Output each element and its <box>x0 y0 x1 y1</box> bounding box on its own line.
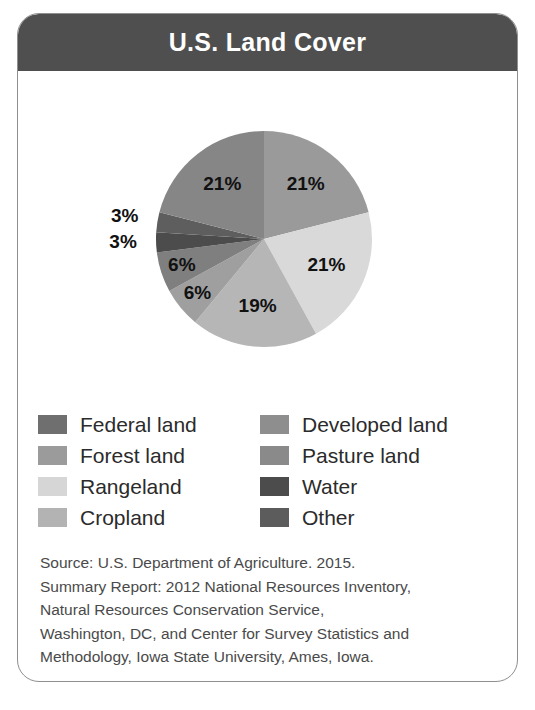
pie-slice-label: 19% <box>239 295 277 316</box>
legend-swatch-icon <box>260 508 289 527</box>
legend-swatch-icon <box>260 415 289 434</box>
legend-item-label: Rangeland <box>80 475 182 499</box>
source-line: Summary Report: 2012 National Resources … <box>40 575 500 599</box>
legend-item[interactable]: Cropland <box>38 502 256 533</box>
legend-item-label: Water <box>302 475 357 499</box>
legend-item-label: Cropland <box>80 506 165 530</box>
legend-swatch-icon <box>260 446 289 465</box>
pie-slice-label: 6% <box>184 282 212 303</box>
legend-item-label: Developed land <box>302 413 448 437</box>
source-line: Washington, DC, and Center for Survey St… <box>40 622 500 646</box>
legend-item[interactable]: Developed land <box>260 409 478 440</box>
legend-swatch-icon <box>38 508 67 527</box>
legend-item-label: Forest land <box>80 444 185 468</box>
legend-item[interactable]: Federal land <box>38 409 256 440</box>
pie-slice-label: 3% <box>109 231 137 252</box>
legend-item[interactable]: Forest land <box>38 440 256 471</box>
pie-chart-svg: 21%21%19%6%6%3%3%21% <box>18 71 518 411</box>
legend-item-label: Pasture land <box>302 444 420 468</box>
pie-chart: 21%21%19%6%6%3%3%21% <box>18 71 517 411</box>
legend-item[interactable]: Pasture land <box>260 440 478 471</box>
pie-slice-label: 6% <box>168 254 196 275</box>
page-title: U.S. Land Cover <box>169 28 367 57</box>
legend-item[interactable]: Water <box>260 471 478 502</box>
source-note: Source: U.S. Department of Agriculture. … <box>40 551 500 669</box>
legend-swatch-icon <box>38 477 67 496</box>
source-line: Methodology, Iowa State University, Ames… <box>40 645 500 669</box>
chart-title-bar: U.S. Land Cover <box>18 14 517 71</box>
legend-item[interactable]: Other <box>260 502 478 533</box>
pie-slice-label: 3% <box>111 205 139 226</box>
legend-item-label: Federal land <box>80 413 197 437</box>
pie-slice-label: 21% <box>307 254 345 275</box>
legend-swatch-icon <box>38 415 67 434</box>
chart-legend: Federal landDeveloped landForest landPas… <box>38 409 498 533</box>
source-line: Natural Resources Conservation Service, <box>40 598 500 622</box>
pie-slice-label: 21% <box>203 173 241 194</box>
source-line: Source: U.S. Department of Agriculture. … <box>40 551 500 575</box>
chart-card: U.S. Land Cover 21%21%19%6%6%3%3%21% Fed… <box>17 13 518 682</box>
legend-item-label: Other <box>302 506 355 530</box>
legend-item[interactable]: Rangeland <box>38 471 256 502</box>
legend-swatch-icon <box>260 477 289 496</box>
legend-swatch-icon <box>38 446 67 465</box>
pie-slice-label: 21% <box>287 173 325 194</box>
